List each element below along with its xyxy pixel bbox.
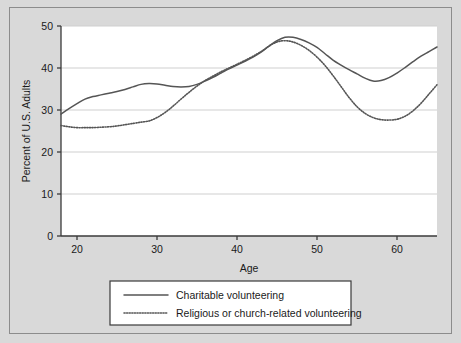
x-tick-label-50: 50 bbox=[311, 243, 323, 255]
y-tick-label-0: 0 bbox=[47, 230, 53, 242]
chart-legend: Charitable volunteeringReligious or chur… bbox=[110, 281, 362, 325]
legend-label-1: Religious or church-related volunteering bbox=[176, 307, 362, 319]
y-tick-label-30: 30 bbox=[41, 104, 53, 116]
x-tick-label-20: 20 bbox=[71, 243, 83, 255]
plot-panel bbox=[61, 26, 437, 236]
legend-label-0: Charitable volunteering bbox=[176, 289, 284, 301]
x-tick-label-30: 30 bbox=[151, 243, 163, 255]
y-axis-title: Percent of U.S. Adults bbox=[20, 80, 32, 183]
x-tick-label-40: 40 bbox=[231, 243, 243, 255]
x-tick-label-60: 60 bbox=[391, 243, 403, 255]
x-axis-tick-labels: 2030405060 bbox=[71, 243, 403, 255]
y-axis-tick-labels: 01020304050 bbox=[41, 20, 53, 242]
y-tick-label-10: 10 bbox=[41, 188, 53, 200]
x-axis-title: Age bbox=[240, 262, 259, 274]
y-tick-label-40: 40 bbox=[41, 62, 53, 74]
y-tick-label-50: 50 bbox=[41, 20, 53, 32]
y-tick-label-20: 20 bbox=[41, 146, 53, 158]
line-chart: 01020304050 2030405060 Percent of U.S. A… bbox=[0, 0, 461, 343]
figure-container: 01020304050 2030405060 Percent of U.S. A… bbox=[0, 0, 461, 343]
